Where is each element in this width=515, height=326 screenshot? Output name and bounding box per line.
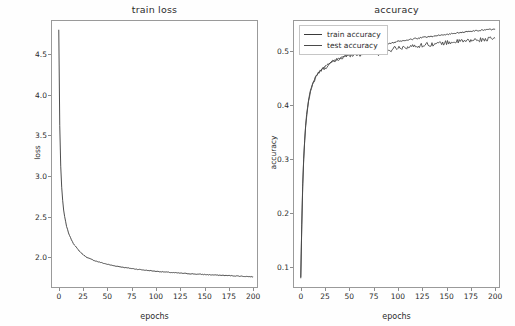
legend-item-train-accuracy: train accuracy: [304, 29, 381, 40]
y-tick-label: 2.0: [35, 253, 47, 262]
x-tick-mark: [495, 288, 496, 291]
legend-item-test-accuracy: test accuracy: [304, 40, 381, 51]
chart-title-accuracy: accuracy: [293, 4, 500, 15]
x-tick-mark: [156, 288, 157, 291]
x-tick-label: 175: [464, 292, 478, 301]
x-tick-mark: [325, 288, 326, 291]
chart-accuracy: accuracy train accuracy test accuracy ac…: [293, 20, 500, 288]
x-tick-label: 100: [391, 292, 405, 301]
x-tick-mark: [349, 288, 350, 291]
y-tick-mark: [290, 51, 293, 52]
x-tick-mark: [205, 288, 206, 291]
x-tick-label: 25: [78, 292, 88, 301]
x-tick-label: 50: [103, 292, 113, 301]
x-tick-mark: [301, 288, 302, 291]
y-tick-mark: [48, 257, 51, 258]
x-tick-label: 75: [369, 292, 379, 301]
x-tick-mark: [59, 288, 60, 291]
y-tick-mark: [290, 105, 293, 106]
y-tick-mark: [290, 267, 293, 268]
y-tick-mark: [48, 54, 51, 55]
series-line-train-accuracy: [301, 29, 495, 278]
legend-label-test-accuracy: test accuracy: [327, 40, 378, 51]
y-tick-label: 0.5: [277, 47, 289, 56]
y-tick-label: 3.0: [35, 171, 47, 180]
y-tick-label: 2.5: [35, 212, 47, 221]
y-tick-label: 3.5: [35, 131, 47, 140]
y-tick-mark: [48, 176, 51, 177]
legend-accuracy: train accuracy test accuracy: [299, 25, 388, 55]
x-tick-label: 200: [246, 292, 260, 301]
y-tick-mark: [48, 95, 51, 96]
x-tick-label: 0: [298, 292, 303, 301]
x-tick-label: 125: [173, 292, 187, 301]
x-tick-mark: [422, 288, 423, 291]
chart-title-train-loss: train loss: [51, 4, 258, 15]
x-tick-mark: [253, 288, 254, 291]
x-tick-label: 125: [415, 292, 429, 301]
y-tick-label: 0.1: [277, 263, 289, 272]
y-tick-mark: [48, 135, 51, 136]
chart-train-loss: train loss loss epochs 02550751001251501…: [51, 20, 258, 288]
x-tick-label: 175: [222, 292, 236, 301]
x-axis-label-epochs-accuracy: epochs: [293, 312, 500, 321]
x-tick-label: 100: [149, 292, 163, 301]
x-tick-label: 150: [439, 292, 453, 301]
y-tick-label: 0.2: [277, 209, 289, 218]
series-line-test-accuracy: [301, 37, 495, 277]
y-tick-label: 4.0: [35, 90, 47, 99]
y-tick-label: 0.4: [277, 101, 289, 110]
x-tick-label: 25: [320, 292, 330, 301]
x-tick-label: 150: [197, 292, 211, 301]
plot-lines-train-loss: [51, 20, 258, 288]
x-tick-label: 75: [127, 292, 137, 301]
y-tick-mark: [48, 217, 51, 218]
y-tick-label: 4.5: [35, 50, 47, 59]
x-tick-mark: [229, 288, 230, 291]
x-tick-mark: [398, 288, 399, 291]
x-tick-mark: [132, 288, 133, 291]
y-tick-mark: [290, 159, 293, 160]
plot-lines-accuracy: [293, 20, 500, 288]
y-axis-label-accuracy: accuracy: [269, 123, 278, 183]
y-tick-mark: [290, 213, 293, 214]
series-line-train-loss: [59, 30, 253, 277]
figure-canvas: train loss loss epochs 02550751001251501…: [0, 0, 515, 326]
legend-label-train-accuracy: train accuracy: [327, 29, 381, 40]
x-tick-mark: [447, 288, 448, 291]
x-tick-label: 50: [345, 292, 355, 301]
legend-swatch-train-accuracy: [304, 34, 322, 36]
x-axis-label-epochs-loss: epochs: [51, 312, 258, 321]
x-tick-mark: [180, 288, 181, 291]
x-tick-mark: [374, 288, 375, 291]
legend-swatch-test-accuracy: [304, 45, 322, 47]
y-tick-label: 0.3: [277, 155, 289, 164]
x-tick-mark: [107, 288, 108, 291]
x-tick-mark: [471, 288, 472, 291]
x-tick-mark: [83, 288, 84, 291]
x-tick-label: 0: [56, 292, 61, 301]
x-tick-label: 200: [488, 292, 502, 301]
